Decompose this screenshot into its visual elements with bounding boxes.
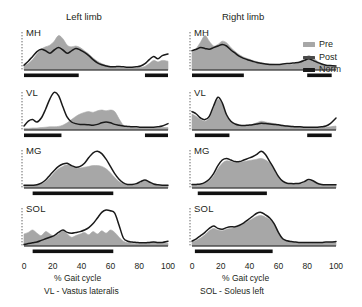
norm-bar — [195, 134, 230, 138]
legend: Pre Post Norm — [303, 39, 359, 77]
norm-bar — [24, 134, 61, 138]
x-tick-60: 60 — [106, 261, 115, 271]
pre-area — [24, 230, 168, 246]
x-tick-60: 60 — [274, 261, 283, 271]
x-tick-20: 20 — [48, 261, 57, 271]
norm-bar — [195, 250, 273, 254]
x-tick-0: 0 — [22, 261, 27, 271]
norm-bar — [33, 250, 114, 254]
pre-area — [24, 36, 168, 70]
norm-bar — [307, 134, 331, 138]
x-axis-tick-labels: 020406080100 — [186, 261, 338, 273]
muscle-label-sol: SOL — [194, 203, 214, 214]
muscle-label-vl: VL — [194, 87, 206, 98]
muscle-label-sol: SOL — [26, 203, 46, 214]
muscle-label-vl: VL — [26, 87, 38, 98]
muscle-label-mh: MH — [26, 27, 41, 38]
norm-bar — [192, 74, 244, 78]
muscle-label-mh: MH — [194, 27, 209, 38]
legend-swatch-norm-icon — [303, 68, 315, 73]
x-tick-80: 80 — [134, 261, 143, 271]
muscle-label-mg: MG — [194, 145, 210, 156]
norm-bar — [145, 74, 168, 78]
footnote-vl: VL - Vastus lateralis — [44, 286, 119, 296]
muscle-label-mg: MG — [26, 145, 42, 156]
x-tick-100: 100 — [329, 261, 343, 271]
x-axis-label: % Gait cycle — [54, 273, 101, 283]
x-axis-label: % Gait cycle — [222, 273, 269, 283]
legend-swatch-pre-icon — [303, 42, 315, 47]
x-tick-20: 20 — [216, 261, 225, 271]
pre-area — [192, 216, 336, 246]
norm-bar — [198, 192, 267, 196]
emg-panel-left-vl — [18, 88, 170, 140]
x-tick-100: 100 — [161, 261, 175, 271]
footnote-sol: SOL - Soleus left — [200, 286, 264, 296]
legend-item-pre: Pre — [303, 39, 359, 51]
norm-bar — [24, 74, 79, 78]
legend-item-norm: Norm — [303, 64, 359, 76]
legend-label-pre: Pre — [319, 40, 333, 49]
norm-bar — [33, 192, 114, 196]
column-title-right-limb: Right limb — [222, 11, 264, 22]
legend-label-norm: Norm — [319, 65, 341, 74]
legend-label-post: Post — [319, 53, 337, 62]
x-tick-0: 0 — [190, 261, 195, 271]
x-tick-40: 40 — [77, 261, 86, 271]
legend-swatch-post-icon — [303, 56, 315, 59]
norm-bar — [145, 134, 168, 138]
pre-area — [24, 165, 168, 188]
emg-panel-right-vl — [186, 88, 338, 140]
x-tick-80: 80 — [302, 261, 311, 271]
emg-gait-figure: Left limb Right limb MHVLMGSOLMHVLMGSOL0… — [0, 0, 362, 307]
x-tick-40: 40 — [245, 261, 254, 271]
column-title-left-limb: Left limb — [66, 11, 102, 22]
legend-item-post: Post — [303, 52, 359, 64]
x-axis-tick-labels: 020406080100 — [18, 261, 170, 273]
